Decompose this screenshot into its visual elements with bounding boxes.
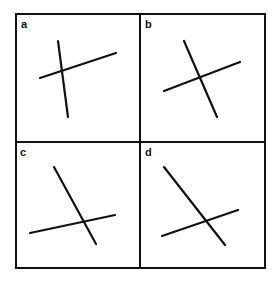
line-segment	[30, 215, 115, 233]
panel-a: a	[21, 18, 116, 117]
line-segment	[54, 167, 96, 244]
crossing-lines-figure: a b c d	[0, 0, 280, 284]
line-segment	[58, 41, 68, 117]
panel-d: d	[145, 146, 238, 245]
panel-c: c	[20, 146, 115, 244]
frame	[16, 14, 265, 268]
panel-label-d: d	[145, 146, 152, 158]
panel-label-b: b	[145, 18, 152, 30]
line-segment	[184, 41, 217, 117]
line-segment	[164, 62, 240, 91]
panel-label-c: c	[20, 146, 26, 158]
panel-b: b	[145, 18, 240, 117]
panel-label-a: a	[21, 18, 28, 30]
line-segment	[40, 53, 116, 78]
